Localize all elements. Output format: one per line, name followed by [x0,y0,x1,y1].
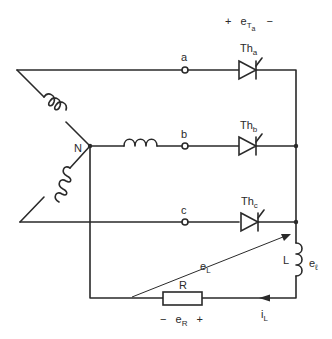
load-voltage-label: eL [200,260,211,275]
svg-text:b: b [181,128,187,140]
resistor-voltage-label: − eR + [160,313,203,328]
terminal-c: c [181,204,188,225]
svg-text:c: c [181,204,187,216]
svg-text:a: a [181,51,188,63]
source-winding-b [90,139,185,146]
load-voltage-arrow-icon [132,234,291,297]
thyristor-voltage-label: + eTa − [225,15,273,33]
rectifier-circuit-diagram: N a b c Tha Thb Thc [0,0,332,339]
neutral-label: N [74,142,82,154]
thyristor-a-icon [239,58,262,79]
resistor-icon [163,292,202,305]
thyristor-c-label: Thc [241,195,258,210]
thyristor-a-label: Tha [240,42,258,57]
thyristor-b-label: Thb [240,119,258,134]
inductor-label: L [283,254,289,266]
terminal-a: a [181,51,188,73]
current-arrow-icon [259,295,270,302]
thyristor-b-icon [239,134,262,155]
terminal-b: b [181,128,188,149]
source-winding-a [17,70,185,146]
resistor-label: R [179,279,187,291]
source-winding-c [20,146,185,222]
load-current-label: iL [261,308,268,323]
inductor-voltage-label: eℓ [309,257,318,272]
cathode-bus [256,70,296,243]
thyristor-c-icon [241,210,264,231]
